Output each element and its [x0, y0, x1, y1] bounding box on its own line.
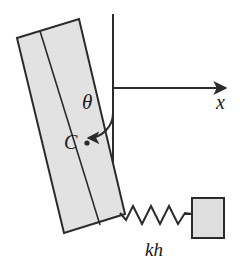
x-axis-label: x	[216, 92, 225, 112]
diagram-canvas	[0, 0, 244, 266]
theta-label: θ	[82, 92, 92, 113]
spring-stiffness-label: kh	[145, 240, 163, 259]
mechanics-diagram: θ C x kh	[0, 0, 244, 266]
center-of-mass-dot	[84, 140, 89, 145]
center-of-mass-label: C	[64, 132, 77, 152]
support-block	[192, 198, 224, 238]
horizontal-spring	[120, 206, 192, 224]
